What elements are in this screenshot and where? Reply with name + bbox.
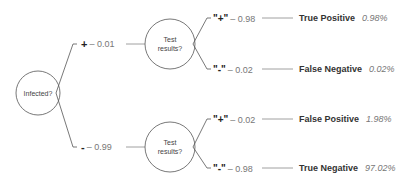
test-node-upper-label: Test results? [158, 35, 183, 53]
branch-line-tn [193, 147, 211, 168]
probability-value: – 0.01 [89, 39, 114, 49]
branch-test-negative-given-healthy: "-" – 0.98 [213, 163, 253, 174]
branch-infected-yes: + – 0.01 [81, 38, 114, 50]
sign-minus: - [81, 141, 85, 153]
test-label-line2: results? [158, 44, 183, 53]
outcome-label: True Positive [299, 13, 355, 23]
branch-infected-no: - – 0.99 [81, 141, 112, 153]
branch-test-negative-given-infected: "-" – 0.02 [213, 64, 253, 75]
sign-plus: + [81, 38, 87, 50]
outcome-label: False Negative [299, 64, 362, 74]
outcome-percentage: 97.02% [365, 163, 396, 173]
outcome-label: False Positive [299, 114, 359, 124]
outcome-percentage: 1.98% [366, 114, 392, 124]
outcome-percentage: 0.02% [369, 64, 395, 74]
tree-lines [0, 0, 409, 180]
sign-test-minus: "-" [213, 163, 226, 174]
outcome-true-negative: True Negative 97.02% [299, 163, 396, 173]
test-label-line1: Test [158, 35, 183, 44]
root-node-label: Infected? [24, 89, 53, 98]
branch-line-fp [193, 119, 211, 147]
probability-value: – 0.98 [228, 163, 253, 173]
probability-value: – 0.02 [230, 114, 255, 124]
probability-value: – 0.98 [230, 13, 255, 23]
root-label-text: Infected? [24, 90, 53, 97]
branch-test-positive-given-infected: "+" – 0.98 [213, 13, 255, 24]
branch-line-fn [193, 44, 211, 69]
outcome-true-positive: True Positive 0.98% [299, 13, 388, 23]
branch-line-infected-no [56, 93, 77, 147]
outcome-false-negative: False Negative 0.02% [299, 64, 395, 74]
sign-test-minus: "-" [213, 64, 226, 75]
probability-value: – 0.02 [228, 64, 253, 74]
sign-test-plus: "+" [213, 13, 228, 24]
outcome-label: True Negative [299, 163, 358, 173]
outcome-percentage: 0.98% [362, 13, 388, 23]
branch-test-positive-given-healthy: "+" – 0.02 [213, 114, 255, 125]
sign-test-plus: "+" [213, 114, 228, 125]
branch-line-tp [193, 18, 211, 44]
test-label-line1: Test [158, 138, 183, 147]
outcome-false-positive: False Positive 1.98% [299, 114, 392, 124]
test-label-line2: results? [158, 147, 183, 156]
probability-value: – 0.99 [87, 142, 112, 152]
test-node-lower-label: Test results? [158, 138, 183, 156]
